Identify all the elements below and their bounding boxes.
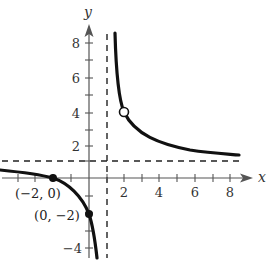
point-label-x-intercept: (−2, 0) <box>15 186 61 201</box>
point-label-y-intercept: (0, −2) <box>34 208 80 223</box>
y-tick-label-2: 2 <box>72 139 80 154</box>
right-branch-curve <box>115 33 239 155</box>
x-tick-label-8: 8 <box>226 185 234 200</box>
y-axis-label: y <box>83 4 93 20</box>
y-tick-label-neg4: −4 <box>63 241 82 256</box>
rational-function-graph: 2 4 6 8 x 8 6 4 2 −4 y <box>0 0 269 262</box>
point-y-intercept <box>85 210 93 218</box>
y-tick-label-4: 4 <box>72 106 80 121</box>
x-tick-label-2: 2 <box>120 185 128 200</box>
x-axis-label: x <box>258 169 266 185</box>
point-x-intercept <box>49 174 57 182</box>
x-tick-label-6: 6 <box>191 185 199 200</box>
open-circle-hole <box>120 108 129 117</box>
y-tick-label-6: 6 <box>72 71 80 86</box>
x-tick-label-4: 4 <box>155 185 163 200</box>
y-tick-label-8: 8 <box>72 36 80 51</box>
